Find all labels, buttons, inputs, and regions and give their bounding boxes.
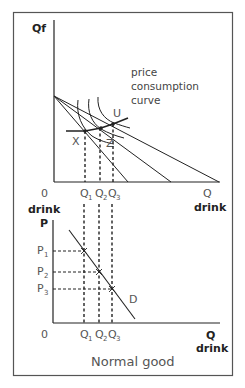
svg-text:2: 2 — [103, 194, 107, 202]
bottom-graph: P D P 1 P 2 P 3 — [37, 204, 229, 355]
svg-text:3: 3 — [116, 194, 120, 202]
svg-text:1: 1 — [88, 194, 92, 202]
svg-text:1: 1 — [44, 251, 48, 259]
svg-text:3: 3 — [44, 289, 48, 297]
svg-text:2: 2 — [44, 272, 48, 280]
svg-text:P: P — [37, 265, 44, 278]
pcc-annotation-line-2: consumption — [131, 80, 199, 92]
pcc-annotation-line-1: price — [131, 66, 157, 78]
point-x-label: X — [72, 135, 80, 148]
point-u-label: U — [113, 107, 121, 120]
top-q3-tick: Q 3 — [108, 187, 120, 202]
top-origin-label: 0 — [41, 187, 48, 200]
demand-label: D — [129, 293, 137, 306]
bottom-q3-tick: Q 3 — [108, 328, 120, 343]
top-y-axis-label: Qf — [32, 22, 46, 35]
top-q2-tick: Q 2 — [95, 187, 107, 202]
figure-caption: Normal good — [91, 354, 175, 369]
p2-tick: P 2 — [37, 265, 48, 280]
bottom-x-axis-sublabel: drink — [196, 342, 229, 355]
top-x-axis-label: Q — [203, 187, 212, 200]
price-consumption-diagram: Qf X Z U price consumption curve 0 drink… — [0, 0, 245, 388]
p3-tick: P 3 — [37, 282, 48, 297]
top-q1-tick: Q 1 — [80, 187, 92, 202]
svg-text:1: 1 — [88, 335, 92, 343]
top-x-axis-sublabel: drink — [194, 201, 227, 214]
bottom-origin-label: 0 — [41, 328, 48, 341]
svg-text:3: 3 — [116, 335, 120, 343]
svg-text:P: P — [37, 244, 44, 257]
bottom-x-axis-label: Q — [206, 329, 215, 342]
bottom-q1-tick: Q 1 — [80, 328, 92, 343]
top-graph: Qf X Z U price consumption curve 0 drink… — [28, 20, 227, 216]
svg-text:2: 2 — [103, 335, 107, 343]
top-origin-sublabel: drink — [28, 203, 61, 216]
pcc-annotation-line-3: curve — [131, 94, 160, 106]
p1-tick: P 1 — [37, 244, 48, 259]
bottom-q2-tick: Q 2 — [95, 328, 107, 343]
bottom-y-axis-label: P — [40, 217, 48, 230]
svg-text:P: P — [37, 282, 44, 295]
